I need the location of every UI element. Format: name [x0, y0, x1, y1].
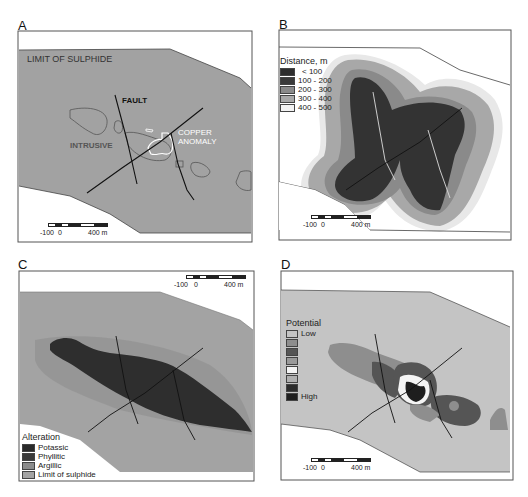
limit-of-sulphide-label: LIMIT OF SULPHIDE — [27, 55, 112, 64]
legend-label: Argillic — [38, 462, 62, 470]
legend-swatch — [22, 471, 35, 479]
legend-item: 400 - 500 — [280, 103, 332, 112]
legend-swatch — [22, 444, 35, 452]
copper-anomaly-label-line1: COPPER — [178, 129, 212, 137]
legend-swatch — [280, 86, 295, 94]
legend-item — [286, 383, 321, 392]
legend-item: Phyllitic — [22, 452, 96, 461]
scale-zero-label: 0 — [58, 229, 62, 236]
legend-item: Limit of sulphide — [22, 470, 96, 479]
panel-letter-c: C — [18, 258, 27, 271]
intrusive-label: INTRUSIVE — [70, 142, 113, 150]
legend-swatch — [286, 393, 298, 401]
scale-right-label: 400 m — [351, 464, 370, 471]
legend-swatch — [22, 462, 35, 470]
legend-item: < 100 — [280, 67, 332, 76]
legend-swatch — [280, 95, 295, 103]
legend-item — [286, 356, 321, 365]
scale-bar-graphic — [311, 458, 371, 462]
scale-bar-b: -100 0 400 m — [311, 215, 371, 230]
legend-swatch — [286, 330, 298, 338]
legend-item: High — [286, 392, 321, 401]
legend-label: Limit of sulphide — [38, 471, 96, 479]
legend-swatch — [286, 357, 298, 365]
legend-item: 200 - 300 — [280, 85, 332, 94]
scale-right-label: 400 m — [351, 221, 370, 228]
legend-swatch — [286, 339, 298, 347]
legend-item: 300 - 400 — [280, 94, 332, 103]
legend-title: Alteration — [22, 433, 96, 442]
legend-item: Argillic — [22, 461, 96, 470]
legend-label: Phyllitic — [38, 453, 65, 461]
legend-potential: Potential Low High — [286, 319, 321, 401]
scale-right-label: 400 m — [88, 229, 107, 236]
legend-title: Potential — [286, 319, 321, 328]
legend-swatch — [22, 453, 35, 461]
legend-swatch — [286, 384, 298, 392]
legend-high-label: High — [301, 393, 317, 401]
fault-label: FAULT — [122, 97, 147, 105]
scale-bar-graphic — [186, 275, 246, 279]
scale-bar-graphic — [48, 223, 108, 227]
legend-label: 400 - 500 — [298, 104, 332, 112]
scale-zero-label: 0 — [321, 464, 325, 471]
figure-maps — [0, 0, 528, 497]
legend-item — [286, 374, 321, 383]
scale-left-label: -100 — [303, 464, 317, 471]
legend-item — [286, 338, 321, 347]
legend-distance: Distance, m < 100 100 - 200 200 - 300 30… — [280, 57, 332, 112]
scale-bar-d: -100 0 400 m — [311, 458, 371, 473]
legend-label: 200 - 300 — [298, 86, 332, 94]
scale-zero-label: 0 — [194, 281, 198, 288]
panel-letter-b: B — [279, 18, 288, 31]
scale-zero-label: 0 — [321, 221, 325, 228]
scale-bar-a: -100 0 400 m — [48, 223, 108, 238]
legend-label: Potassic — [38, 444, 68, 452]
legend-swatch — [280, 104, 295, 112]
copper-anomaly-label-line2: ANOMALY — [178, 138, 217, 146]
legend-label: < 100 — [302, 68, 322, 76]
scale-left-label: -100 — [303, 221, 317, 228]
scale-left-label: -100 — [174, 281, 188, 288]
legend-item — [286, 365, 321, 374]
legend-item: Potassic — [22, 443, 96, 452]
legend-item: 100 - 200 — [280, 76, 332, 85]
legend-swatch — [286, 348, 298, 356]
scale-bar-c: -100 0 400 m — [186, 275, 246, 290]
legend-alteration: Alteration Potassic Phyllitic Argillic L… — [22, 433, 96, 479]
legend-label: 300 - 400 — [298, 95, 332, 103]
scale-left-label: -100 — [40, 229, 54, 236]
legend-swatch — [280, 77, 295, 85]
scale-right-label: 400 m — [224, 281, 243, 288]
legend-swatch — [280, 68, 295, 76]
legend-label: 100 - 200 — [298, 77, 332, 85]
panel-letter-d: D — [281, 258, 290, 271]
scale-bar-graphic — [311, 215, 371, 219]
legend-low-label: Low — [301, 330, 316, 338]
legend-item: Low — [286, 329, 321, 338]
legend-title: Distance, m — [280, 57, 332, 66]
legend-item — [286, 347, 321, 356]
legend-swatch — [286, 366, 298, 374]
legend-swatch — [286, 375, 298, 383]
panel-letter-a: A — [18, 19, 27, 32]
